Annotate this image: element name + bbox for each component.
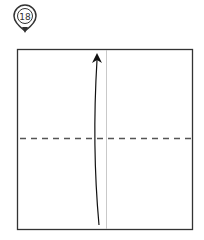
step-number: 18 [19, 12, 31, 22]
step-marker-icon: 18 [14, 5, 36, 33]
diagram-canvas: 18 [0, 0, 204, 240]
paper-square [18, 50, 193, 230]
